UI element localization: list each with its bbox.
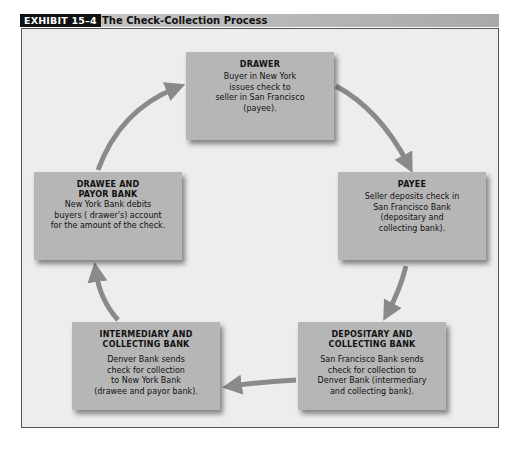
node-title: DEPOSITARY AND COLLECTING BANK	[298, 330, 446, 350]
node-payee: PAYEE Seller deposits check in San Franc…	[338, 172, 486, 260]
node-title: PAYEE	[338, 180, 486, 190]
node-body: Buyer in New York issues check to seller…	[186, 72, 334, 114]
node-body: San Francisco Bank sends check for colle…	[298, 355, 446, 397]
node-drawee: DRAWEE AND PAYOR BANK New York Bank debi…	[34, 172, 182, 260]
node-title: INTERMEDIARY AND COLLECTING BANK	[72, 330, 220, 350]
arrow-payee-to-depositary	[388, 266, 406, 312]
node-title: DRAWEE AND PAYOR BANK	[34, 180, 182, 200]
node-drawer: DRAWER Buyer in New York issues check to…	[186, 52, 334, 140]
node-body: New York Bank debits buyers ( drawer's) …	[34, 200, 182, 232]
arrow-depositary-to-intermediary	[232, 380, 296, 386]
arrow-intermediary-to-drawee	[96, 272, 118, 320]
arrow-drawer-to-payee	[336, 86, 408, 164]
arrow-drawee-to-drawer	[98, 88, 176, 170]
node-title: DRAWER	[186, 60, 334, 70]
node-body: Seller deposits check in San Francisco B…	[338, 192, 486, 234]
node-depositary: DEPOSITARY AND COLLECTING BANK San Franc…	[298, 322, 446, 410]
node-intermediary: INTERMEDIARY AND COLLECTING BANK Denver …	[72, 322, 220, 410]
node-body: Denver Bank sends check for collection t…	[72, 355, 220, 397]
